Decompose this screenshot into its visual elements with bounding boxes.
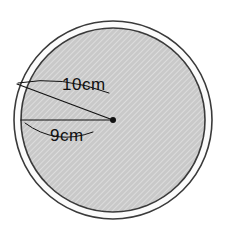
center-dot: [110, 117, 116, 123]
diagram-container: 10cm 9cm: [0, 0, 226, 239]
circle-diagram-svg: 10cm 9cm: [0, 0, 226, 239]
inner-radius-label: 9cm: [50, 126, 84, 145]
outer-radius-label: 10cm: [62, 75, 106, 94]
